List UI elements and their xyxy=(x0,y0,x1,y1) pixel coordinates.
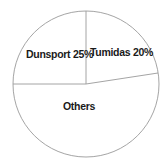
slice-label-others: Others xyxy=(63,100,96,112)
slice-label-tumidas: Tumidas 20% xyxy=(90,46,154,58)
pie-chart: Dunsport 25% Tumidas 20% Others xyxy=(0,0,166,166)
pie-chart-svg: Dunsport 25% Tumidas 20% Others xyxy=(0,0,166,166)
slice-label-dunsport: Dunsport 25% xyxy=(26,48,94,60)
